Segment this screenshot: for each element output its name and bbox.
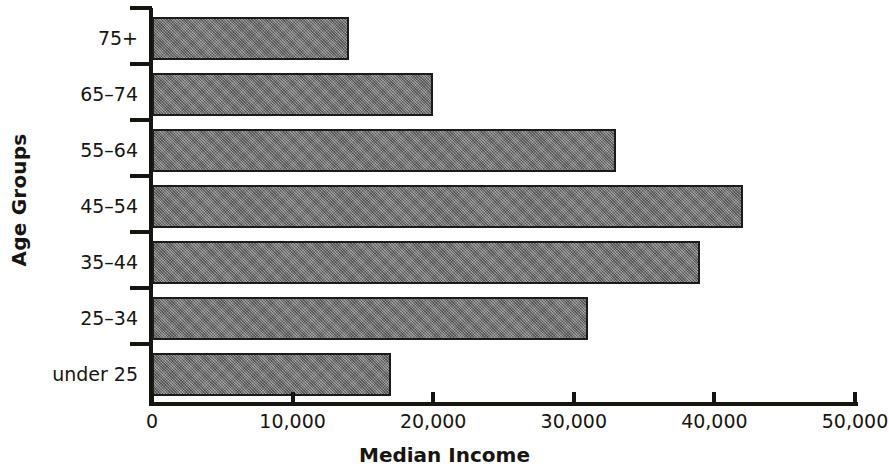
bar-75- bbox=[152, 17, 349, 60]
y-axis-tick bbox=[130, 286, 152, 290]
y-axis-tick bbox=[130, 6, 152, 10]
x-axis-line bbox=[149, 402, 858, 406]
bar-45-54 bbox=[152, 185, 743, 228]
x-axis-tick-label: 10,000 bbox=[259, 410, 325, 432]
x-axis-tick bbox=[712, 392, 716, 404]
y-axis-tick-label: 35–44 bbox=[80, 251, 138, 273]
y-axis-tick-label: 65–74 bbox=[80, 83, 138, 105]
bar-25-34 bbox=[152, 297, 588, 340]
plot-area bbox=[152, 10, 855, 402]
y-axis-tick bbox=[130, 342, 152, 346]
bar-chart: Age Groups under 2525–3435–4445–5455–646… bbox=[0, 0, 889, 474]
x-axis-tick-label: 40,000 bbox=[681, 410, 747, 432]
y-axis-tick-label: 75+ bbox=[98, 27, 138, 49]
x-axis-tick bbox=[431, 392, 435, 404]
bar-55-64 bbox=[152, 129, 616, 172]
bar-65-74 bbox=[152, 73, 433, 116]
x-axis-tick-label: 20,000 bbox=[400, 410, 466, 432]
bar-35-44 bbox=[152, 241, 700, 284]
x-axis-tick bbox=[853, 392, 857, 404]
y-axis-tick-label: under 25 bbox=[52, 363, 138, 385]
x-axis-tick bbox=[572, 392, 576, 404]
y-axis-title: Age Groups bbox=[2, 0, 36, 400]
bar-under-25 bbox=[152, 353, 391, 396]
x-axis-tick bbox=[291, 392, 295, 404]
y-axis-title-text: Age Groups bbox=[7, 134, 31, 267]
x-axis-tick bbox=[150, 392, 154, 404]
x-axis-tick-label: 50,000 bbox=[822, 410, 888, 432]
y-axis-tick bbox=[130, 118, 152, 122]
y-axis-tick-label: 45–54 bbox=[80, 195, 138, 217]
y-axis-tick bbox=[130, 62, 152, 66]
y-axis-tick bbox=[130, 174, 152, 178]
y-axis-tick-label: 25–34 bbox=[80, 307, 138, 329]
x-axis-title: Median Income bbox=[0, 443, 889, 467]
x-axis-tick-label: 30,000 bbox=[541, 410, 607, 432]
y-axis-tick bbox=[130, 230, 152, 234]
y-axis-tick-label: 55–64 bbox=[80, 139, 138, 161]
x-axis-tick-label: 0 bbox=[146, 410, 158, 432]
